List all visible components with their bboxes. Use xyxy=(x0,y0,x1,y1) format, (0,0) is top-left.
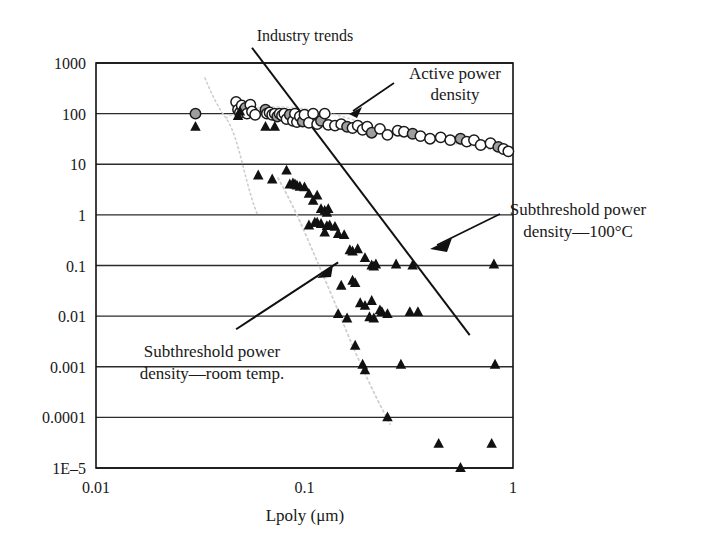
data-point-triangle xyxy=(336,280,347,290)
data-point-triangle xyxy=(490,359,501,369)
data-point-triangle xyxy=(489,259,500,269)
data-point-triangle xyxy=(281,165,292,175)
subthreshold-room-temp-trend xyxy=(236,262,338,329)
annotation-subthreshold-100c-arrow xyxy=(437,214,500,245)
chart-figure: Industry trends 10001001010.10.010.0010.… xyxy=(0,0,702,558)
y-tick-label: 0.001 xyxy=(50,359,86,376)
x-axis-title: Lpoly (μm) xyxy=(266,506,345,525)
data-point-circle xyxy=(476,140,486,150)
y-tick-label: 100 xyxy=(62,106,86,123)
data-point-triangle xyxy=(190,121,201,131)
y-tick-label: 1 xyxy=(78,207,86,224)
chart-title: Industry trends xyxy=(257,27,353,45)
data-point-circle xyxy=(503,146,513,156)
data-point-triangle xyxy=(312,190,323,200)
data-point-circle xyxy=(415,131,425,141)
data-point-triangle xyxy=(253,170,264,180)
data-point-triangle xyxy=(260,121,271,131)
data-point-triangle xyxy=(396,359,407,369)
data-point-circle xyxy=(425,133,435,143)
annotation-active-power-line1: Active power xyxy=(409,64,501,83)
data-point-circle xyxy=(435,132,445,142)
data-point-triangle xyxy=(360,252,371,262)
annotation-room-temp-line1: Subthreshold power xyxy=(144,342,281,361)
data-point-triangle xyxy=(433,438,444,448)
industry-trends-scatter-chart: Industry trends 10001001010.10.010.0010.… xyxy=(0,0,702,558)
data-point-triangle xyxy=(267,174,278,184)
data-series xyxy=(190,97,513,472)
annotation-active-power-arrow xyxy=(353,83,394,111)
x-tick-label: 0.01 xyxy=(82,479,110,496)
y-tick-label: 0.0001 xyxy=(42,409,86,426)
data-point-triangle xyxy=(486,438,497,448)
annotation-room-temp-line2: density—room temp. xyxy=(140,364,284,383)
annotation-subthreshold-100c: Subthreshold power density—100°C xyxy=(430,200,647,252)
y-tick-label: 1E–5 xyxy=(52,460,86,477)
data-point-triangle xyxy=(413,306,424,316)
data-point-triangle xyxy=(382,411,393,421)
data-point-circle xyxy=(445,135,455,145)
data-point-triangle xyxy=(391,259,402,269)
data-point-triangle xyxy=(455,462,466,472)
annotation-subthreshold-room-temp: Subthreshold power density—room temp. xyxy=(140,265,333,383)
data-point-circle xyxy=(382,130,392,140)
data-point-triangle xyxy=(270,121,281,131)
x-tick-label: 1 xyxy=(509,479,517,496)
y-tick-label: 1000 xyxy=(54,55,86,72)
x-tick-label: 0.1 xyxy=(295,479,315,496)
annotation-active-power-density: Active power density xyxy=(349,64,501,118)
data-point-circle xyxy=(190,108,200,118)
data-point-triangle xyxy=(352,243,363,253)
y-tick-label: 10 xyxy=(70,156,86,173)
data-point-triangle xyxy=(333,308,344,318)
annotation-subthreshold-100c-line1: Subthreshold power xyxy=(510,200,647,219)
data-point-circle xyxy=(250,110,260,120)
x-axis-tick-labels: 0.010.11 xyxy=(82,479,517,496)
y-tick-label: 0.1 xyxy=(66,258,86,275)
y-axis-tick-labels: 10001001010.10.010.0010.00011E–5 xyxy=(42,55,86,477)
data-point-circle xyxy=(320,108,330,118)
data-point-triangle xyxy=(366,295,377,305)
y-tick-label: 0.01 xyxy=(58,308,86,325)
annotation-subthreshold-100c-line2: density—100°C xyxy=(523,222,633,241)
annotation-active-power-line2: density xyxy=(430,85,480,104)
data-point-triangle xyxy=(342,313,353,323)
annotation-subthreshold-100c-arrowhead xyxy=(430,238,452,252)
